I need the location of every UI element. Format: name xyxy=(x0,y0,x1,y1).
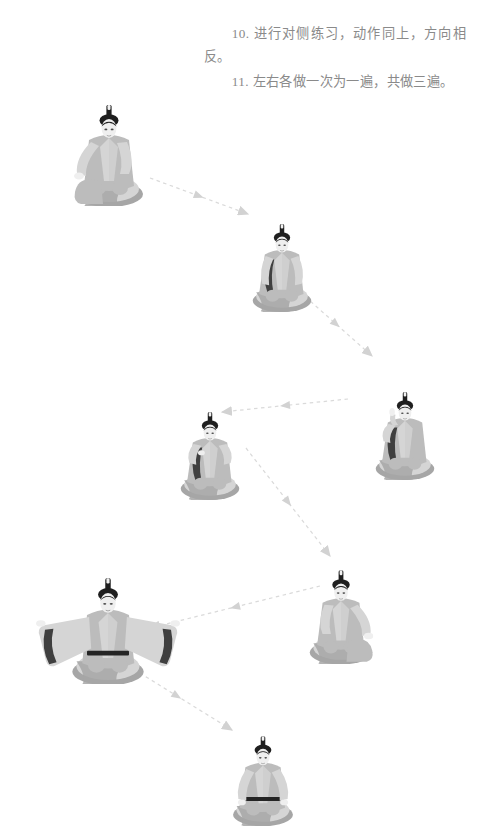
waist-sash xyxy=(245,797,280,801)
head-group xyxy=(397,392,413,420)
arrow-3-4-head xyxy=(280,401,291,410)
instruction-text-block: 10. 进行对侧练习，动作同上，方向相反。 11. 左右各做一次为一遍，共做三遍… xyxy=(204,22,466,95)
head-group xyxy=(202,412,218,440)
head-group xyxy=(100,105,119,138)
instruction-item-10: 10. 进行对侧练习，动作同上，方向相反。 xyxy=(204,22,466,68)
waist-sash xyxy=(87,651,129,656)
figure-1-seated-knee-raised xyxy=(18,16,188,206)
figure-7-seated-hands-on-knees xyxy=(198,668,328,826)
figure-4-kneeling-hands-at-chest xyxy=(150,338,270,500)
head-group xyxy=(274,224,290,252)
figure-2-kneeling-arms-down xyxy=(222,152,342,312)
arrow-6-5-head xyxy=(229,602,241,612)
head-group xyxy=(332,571,349,601)
figure-3-kneeling-hand-raised xyxy=(345,318,465,480)
head-group xyxy=(255,736,272,765)
figure-6-seated-knee-raised-mirrored xyxy=(275,502,415,664)
arrow-5-7-head xyxy=(171,690,184,702)
head-group xyxy=(98,578,118,613)
illustration-page: 10. 进行对侧练习，动作同上，方向相反。 11. 左右各做一次为一遍，共做三遍… xyxy=(0,0,489,833)
arrow-2-3-head xyxy=(330,318,343,331)
arrow-1-2-head xyxy=(193,191,205,202)
instruction-item-11: 11. 左右各做一次为一遍，共做三遍。 xyxy=(204,70,466,93)
figure-5-seated-arms-outstretched xyxy=(18,512,198,684)
